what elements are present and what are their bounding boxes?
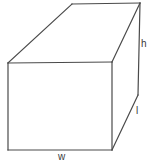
rectangular-prism-diagram: h l w	[0, 0, 148, 163]
width-label: w	[58, 152, 65, 162]
prism-front-face	[8, 62, 112, 150]
length-label: l	[136, 106, 138, 116]
height-label: h	[141, 39, 147, 49]
prism-drawing	[0, 0, 148, 163]
